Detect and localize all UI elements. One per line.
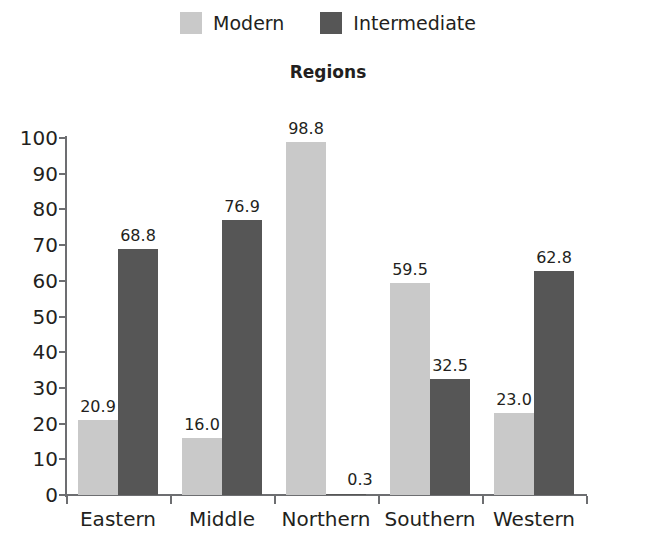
bar-value-label: 32.5	[420, 358, 480, 374]
bar-eastern-intermediate	[118, 249, 158, 495]
x-axis-tick-mark	[66, 496, 68, 504]
y-axis-tick-label: 0	[0, 485, 58, 505]
bar-value-label: 68.8	[108, 228, 168, 244]
y-axis-tick-label: 40	[0, 342, 58, 362]
y-axis-tick-mark	[59, 208, 66, 210]
y-axis-tick-mark	[59, 244, 66, 246]
y-axis-tick-mark	[59, 351, 66, 353]
y-axis-tick-label: 20	[0, 414, 58, 434]
bar-value-label: 62.8	[524, 250, 584, 266]
bar-value-label: 76.9	[212, 199, 272, 215]
y-axis-tick-mark	[59, 316, 66, 318]
x-axis-category-label: Western	[464, 508, 604, 530]
x-axis-tick-mark	[586, 496, 588, 504]
y-axis-tick-mark	[59, 458, 66, 460]
bar-middle-modern	[182, 438, 222, 495]
bar-middle-intermediate	[222, 220, 262, 495]
y-axis-tick-label: 90	[0, 164, 58, 184]
bar-value-label: 0.3	[330, 472, 390, 488]
y-axis-tick-label: 50	[0, 307, 58, 327]
chart-plot-area: 100908070605040302010020.968.8Eastern16.…	[0, 0, 656, 538]
y-axis-tick-mark	[59, 494, 66, 496]
y-axis-tick-label: 70	[0, 235, 58, 255]
y-axis-tick-label: 80	[0, 199, 58, 219]
x-axis-tick-mark	[274, 496, 276, 504]
y-axis-tick-label: 100	[0, 128, 58, 148]
bar-value-label: 98.8	[276, 121, 336, 137]
y-axis-tick-mark	[59, 423, 66, 425]
y-axis-tick-mark	[59, 387, 66, 389]
y-axis-tick-label: 30	[0, 378, 58, 398]
y-axis-tick-label: 60	[0, 271, 58, 291]
x-axis-tick-mark	[378, 496, 380, 504]
y-axis-tick-mark	[59, 280, 66, 282]
bar-western-intermediate	[534, 271, 574, 495]
x-axis-tick-mark	[482, 496, 484, 504]
bar-value-label: 59.5	[380, 262, 440, 278]
bar-northern-intermediate	[326, 494, 366, 495]
bar-eastern-modern	[78, 420, 118, 495]
y-axis-tick-label: 10	[0, 449, 58, 469]
y-axis-tick-mark	[59, 173, 66, 175]
x-axis-tick-mark	[170, 496, 172, 504]
y-axis-tick-mark	[59, 137, 66, 139]
bar-southern-modern	[390, 283, 430, 495]
bar-western-modern	[494, 413, 534, 495]
bar-southern-intermediate	[430, 379, 470, 495]
bar-northern-modern	[286, 142, 326, 495]
